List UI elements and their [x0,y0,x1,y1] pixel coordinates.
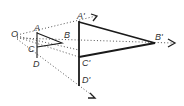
ray-O-C [17,37,79,57]
label-A-prime: A' [76,11,85,21]
label-D-prime: D' [82,75,90,85]
large-figure [79,21,155,86]
arrowheads [88,14,175,98]
label-O: O [11,29,18,39]
label-C-prime: C' [82,58,90,68]
label-C: C [28,44,35,54]
label-B: B [64,30,70,40]
homothety-diagram: O A B C D A' B' C' D' [0,0,184,106]
labels: O A B C D A' B' C' D' [11,11,163,85]
large-triangle-ABC [79,22,155,57]
label-A: A [33,23,40,33]
projection-rays [17,16,172,96]
label-B-prime: B' [155,32,163,42]
label-D: D [33,59,40,69]
